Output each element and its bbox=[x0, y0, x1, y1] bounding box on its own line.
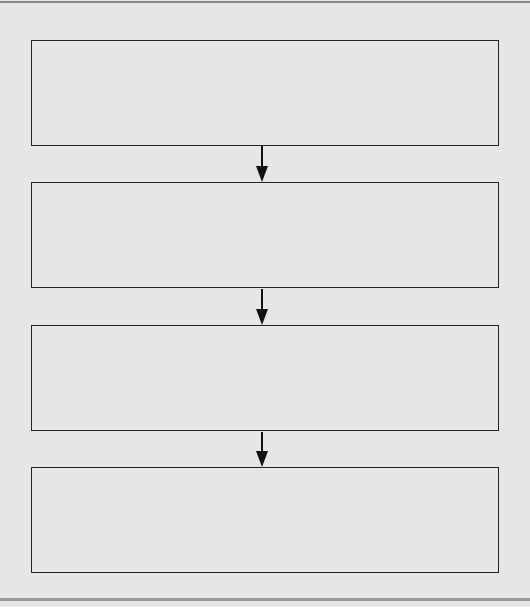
bottom-rule bbox=[0, 598, 530, 601]
arrow-down-icon bbox=[256, 289, 268, 325]
arrow-down-icon bbox=[256, 146, 268, 182]
flowchart-box-3 bbox=[31, 325, 499, 431]
top-rule bbox=[0, 1, 530, 3]
arrow-down-icon bbox=[256, 432, 268, 467]
flowchart-box-1 bbox=[31, 40, 499, 146]
flowchart-box-2 bbox=[31, 182, 499, 288]
flowchart-box-4 bbox=[31, 467, 499, 573]
